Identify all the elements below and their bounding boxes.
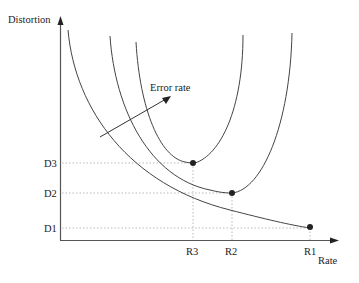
- y-axis-arrow-icon: [58, 16, 64, 25]
- x-axis-label: Rate: [318, 255, 338, 266]
- y-tick-d1: D1: [44, 223, 57, 234]
- rate-distortion-diagram: Distortion Rate Error rate D3 D2 D1 R3 R…: [0, 0, 359, 283]
- error-rate-arrow: [100, 96, 171, 137]
- point-r2-d2: [229, 190, 235, 196]
- x-tick-r1: R1: [304, 246, 316, 257]
- y-tick-d3: D3: [44, 158, 57, 169]
- arrowhead-icon: [162, 96, 171, 104]
- curve-3: [136, 35, 243, 163]
- error-rate-label: Error rate: [150, 82, 191, 93]
- guide-lines: [62, 163, 310, 240]
- point-r1-d1: [307, 224, 313, 230]
- y-axis-label: Distortion: [8, 14, 51, 25]
- x-tick-r3: R3: [186, 246, 198, 257]
- y-tick-d2: D2: [44, 188, 57, 199]
- curve-1: [68, 30, 310, 228]
- x-tick-r2: R2: [225, 246, 237, 257]
- point-r3-d3: [190, 160, 196, 166]
- x-axis-arrow-icon: [330, 238, 339, 244]
